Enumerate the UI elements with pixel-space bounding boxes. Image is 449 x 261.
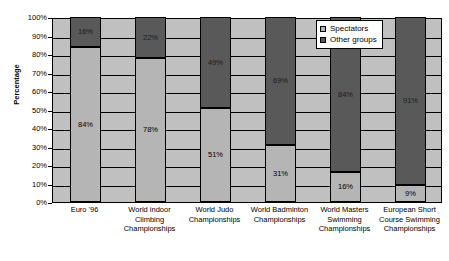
bar-value-label: 84% xyxy=(78,121,93,129)
bar-segment-other-groups[interactable]: 91% xyxy=(395,17,426,185)
y-tick-mark xyxy=(48,203,52,204)
bar-value-label: 84% xyxy=(338,91,353,99)
bar-value-label: 16% xyxy=(78,28,93,36)
plot-area: 84%16%78%22%51%49%31%69%16%84%9%91% xyxy=(52,18,442,203)
legend-swatch-other-groups xyxy=(320,37,326,43)
bar-value-label: 91% xyxy=(403,97,418,105)
bar-segment-spectators[interactable]: 16% xyxy=(330,172,361,202)
bar-value-label: 78% xyxy=(143,126,158,134)
bar-value-label: 49% xyxy=(208,59,223,67)
bar-segment-other-groups[interactable]: 22% xyxy=(135,17,166,58)
bar-group[interactable]: 78%22% xyxy=(135,17,166,202)
bar-value-label: 69% xyxy=(273,77,288,85)
bar-value-label: 51% xyxy=(208,151,223,159)
bar-value-label: 16% xyxy=(338,183,353,191)
legend-label-other-groups: Other groups xyxy=(330,35,377,44)
bar-segment-spectators[interactable]: 84% xyxy=(70,47,101,202)
legend-label-spectators: Spectators xyxy=(330,24,368,33)
bar-segment-other-groups[interactable]: 16% xyxy=(70,17,101,47)
bar-group[interactable]: 84%16% xyxy=(70,17,101,202)
y-tick-label: 80% xyxy=(0,50,52,59)
bar-value-label: 22% xyxy=(143,34,158,42)
bar-segment-spectators[interactable]: 51% xyxy=(200,108,231,202)
y-tick-label: 10% xyxy=(0,180,52,189)
y-tick-label: 100% xyxy=(0,13,52,22)
legend-swatch-spectators xyxy=(320,26,326,32)
legend-item-other-groups[interactable]: Other groups xyxy=(320,34,377,45)
bar-segment-other-groups[interactable]: 49% xyxy=(200,17,231,108)
bar-group[interactable]: 9%91% xyxy=(395,17,426,202)
chart-legend: Spectators Other groups xyxy=(316,20,383,49)
bar-value-label: 31% xyxy=(273,170,288,178)
stacked-bar-chart: Percentage 100%90%80%70%60%50%40%30%20%1… xyxy=(0,0,449,261)
y-tick-label: 90% xyxy=(0,32,52,41)
bar-group[interactable]: 51%49% xyxy=(200,17,231,202)
bar-segment-other-groups[interactable]: 69% xyxy=(265,17,296,145)
y-tick-label: 40% xyxy=(0,124,52,133)
bar-segment-spectators[interactable]: 31% xyxy=(265,145,296,202)
bar-value-label: 9% xyxy=(405,190,416,198)
x-axis-labels: Euro '96World indoorClimbingChampionship… xyxy=(0,205,449,261)
y-tick-label: 50% xyxy=(0,106,52,115)
x-axis-category-label: European ShortCourse SwimmingChampionshi… xyxy=(372,205,448,234)
bars-layer: 84%16%78%22%51%49%31%69%16%84%9%91% xyxy=(53,19,441,202)
legend-item-spectators[interactable]: Spectators xyxy=(320,23,377,34)
bar-segment-spectators[interactable]: 9% xyxy=(395,185,426,202)
bar-segment-spectators[interactable]: 78% xyxy=(135,58,166,202)
y-tick-label: 20% xyxy=(0,161,52,170)
bar-group[interactable]: 31%69% xyxy=(265,17,296,202)
y-tick-label: 70% xyxy=(0,69,52,78)
y-tick-label: 60% xyxy=(0,87,52,96)
y-tick-label: 30% xyxy=(0,143,52,152)
